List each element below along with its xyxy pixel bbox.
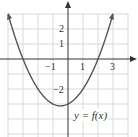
x-tick-label-3: 3 — [110, 62, 115, 72]
graph-canvas — [0, 0, 138, 137]
function-label: y = f(x) — [73, 109, 108, 121]
y-tick-label-neg2: −2 — [53, 85, 64, 95]
y-tick-label-2: 2 — [59, 24, 64, 34]
y-axis-arrow-icon — [65, 1, 71, 8]
x-axis-arrow-icon — [130, 56, 137, 62]
y-tick-label-1: 1 — [59, 39, 64, 49]
x-tick-label-neg1: −1 — [45, 62, 56, 72]
x-tick-label-1: 1 — [80, 62, 85, 72]
